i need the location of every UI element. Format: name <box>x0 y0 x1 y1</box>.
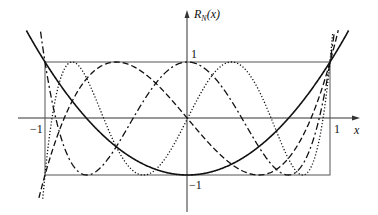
curve-n-2 <box>26 31 348 176</box>
y-axis-arrow-icon <box>185 10 190 18</box>
curve-n-5 <box>43 32 333 199</box>
x-tick-one: 1 <box>334 123 340 135</box>
x-tick-neg-one: −1 <box>30 123 43 135</box>
y-tick-neg-one: −1 <box>189 179 202 191</box>
y-tick-one: 1 <box>191 48 197 60</box>
x-axis-label: x <box>354 124 359 136</box>
y-axis-label-arg: (x) <box>207 7 220 21</box>
x-axis-arrow-icon <box>352 116 360 121</box>
y-axis-label: RN(x) <box>194 8 220 20</box>
y-axis-label-sub: N <box>201 14 206 23</box>
curves <box>26 30 348 199</box>
